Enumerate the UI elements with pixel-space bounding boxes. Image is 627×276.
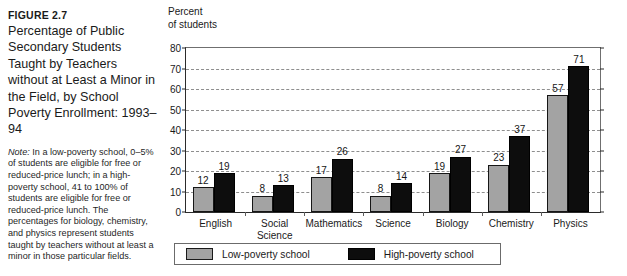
bar-value-label: 26 <box>337 146 348 157</box>
bar-group: 2337 <box>482 48 541 212</box>
bar-group: 5771 <box>541 48 600 212</box>
bar-fill <box>332 159 353 212</box>
chart-legend: Low-poverty school High-poverty school <box>174 243 501 265</box>
bar-group-bars: 2337 <box>488 48 530 212</box>
bar-value-label: 12 <box>198 175 209 186</box>
y-axis-tick-mark <box>600 48 604 49</box>
x-axis-tick-mark <box>541 212 542 216</box>
bar-value-label: 8 <box>259 183 265 194</box>
bar-low-poverty: 57 <box>547 48 568 212</box>
x-axis-tick-mark <box>245 212 246 216</box>
bar-low-poverty: 19 <box>429 48 450 212</box>
bar-high-poverty: 13 <box>273 48 294 212</box>
legend-item-low-poverty: Low-poverty school <box>186 244 310 264</box>
plot-outer: 010203040506070801219English813Social Sc… <box>164 47 601 213</box>
bar-fill <box>370 196 391 212</box>
y-axis-tick-label: 80 <box>170 43 181 54</box>
y-axis-tick-label: 70 <box>170 63 181 74</box>
bar-fill <box>391 183 412 212</box>
x-axis-tick-mark <box>423 212 424 216</box>
bar-group: 814 <box>363 48 422 212</box>
y-axis-tick-mark <box>600 171 604 172</box>
bar-value-label: 8 <box>378 183 384 194</box>
y-axis-tick-label: 50 <box>170 104 181 115</box>
x-axis-tick-mark <box>363 212 364 216</box>
x-axis-tick-mark <box>304 212 305 216</box>
legend-swatch-high-poverty <box>348 248 375 260</box>
bar-group-bars: 1927 <box>429 48 471 212</box>
bar-value-label: 19 <box>219 161 230 172</box>
bar-value-label: 57 <box>552 83 563 94</box>
bar-value-label: 17 <box>316 165 327 176</box>
bar-high-poverty: 19 <box>214 48 235 212</box>
legend-swatch-low-poverty <box>186 248 213 260</box>
chart: Percent of students 01020304050607080121… <box>164 6 619 272</box>
bar-value-label: 14 <box>396 171 407 182</box>
y-axis-tick-label: 20 <box>170 166 181 177</box>
x-axis-category-label: Chemistry <box>489 218 534 230</box>
bar-high-poverty: 14 <box>391 48 412 212</box>
bar-low-poverty: 8 <box>252 48 273 212</box>
bar-group-bars: 1726 <box>311 48 353 212</box>
x-axis-tick-mark <box>482 212 483 216</box>
bar-low-poverty: 17 <box>311 48 332 212</box>
figure-note: Note: In a low-poverty school, 0–5% of s… <box>8 147 160 263</box>
bar-fill <box>214 173 235 212</box>
plot-area: 010203040506070801219English813Social Sc… <box>185 47 601 213</box>
legend-label-low-poverty: Low-poverty school <box>222 249 310 260</box>
figure-title: Percentage of Public Secondary Students … <box>8 23 160 138</box>
y-axis-tick-mark <box>600 68 604 69</box>
bar-low-poverty: 12 <box>193 48 214 212</box>
x-axis-category-label: Mathematics <box>306 218 363 230</box>
bar-group: 813 <box>245 48 304 212</box>
figure-note-body: In a low-poverty school, 0–5% of student… <box>8 147 154 261</box>
bar-group: 1219 <box>186 48 245 212</box>
y-axis-tick-mark <box>600 89 604 90</box>
bar-low-poverty: 8 <box>370 48 391 212</box>
x-axis-category-label: Biology <box>436 218 469 230</box>
x-axis-category-label: Science <box>375 218 411 230</box>
bar-group: 1726 <box>304 48 363 212</box>
bar-fill <box>311 177 332 212</box>
bar-fill <box>547 95 568 212</box>
bar-fill <box>252 196 273 212</box>
y-axis-tick-label: 40 <box>170 125 181 136</box>
y-axis-title: Percent of students <box>168 6 217 31</box>
y-axis-tick-mark <box>600 150 604 151</box>
bar-high-poverty: 37 <box>509 48 530 212</box>
y-axis-tick-mark <box>600 130 604 131</box>
bar-fill <box>568 66 589 212</box>
y-axis-tick-label: 10 <box>170 186 181 197</box>
bar-high-poverty: 26 <box>332 48 353 212</box>
bar-value-label: 23 <box>493 152 504 163</box>
bar-high-poverty: 71 <box>568 48 589 212</box>
bar-fill <box>450 157 471 212</box>
bar-fill <box>273 185 294 212</box>
bar-high-poverty: 27 <box>450 48 471 212</box>
bar-group-bars: 813 <box>252 48 294 212</box>
figure-caption-column: FIGURE 2.7 Percentage of Public Secondar… <box>8 8 160 270</box>
x-axis-category-label: Physics <box>553 218 587 230</box>
legend-label-high-poverty: High-poverty school <box>384 249 474 260</box>
bar-value-label: 13 <box>278 173 289 184</box>
bar-group: 1927 <box>423 48 482 212</box>
y-axis-tick-mark <box>600 212 604 213</box>
x-axis-category-label: English <box>199 218 232 230</box>
y-axis-tick-label: 60 <box>170 84 181 95</box>
bar-value-label: 37 <box>514 124 525 135</box>
x-axis-category-label: Social Science <box>257 218 293 242</box>
bar-group-bars: 814 <box>370 48 412 212</box>
y-axis-tick-label: 30 <box>170 145 181 156</box>
bar-value-label: 27 <box>455 144 466 155</box>
figure-note-lead: Note: <box>8 147 30 157</box>
bar-fill <box>193 187 214 212</box>
y-axis-tick-mark <box>600 109 604 110</box>
bar-value-label: 71 <box>573 54 584 65</box>
bar-group-bars: 1219 <box>193 48 235 212</box>
figure-number-label: FIGURE 2.7 <box>8 8 160 22</box>
bar-group-bars: 5771 <box>547 48 589 212</box>
bar-fill <box>429 173 450 212</box>
y-axis-tick-mark <box>600 191 604 192</box>
figure-container: FIGURE 2.7 Percentage of Public Secondar… <box>0 0 627 276</box>
bar-fill <box>488 165 509 212</box>
